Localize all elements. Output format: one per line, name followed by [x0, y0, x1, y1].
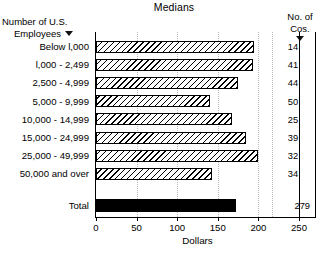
bar-below-1000[interactable] — [96, 41, 254, 53]
companies-value: 32 — [276, 147, 310, 165]
x-tick-150 — [218, 217, 219, 221]
x-tick-100 — [177, 217, 178, 221]
category-label: 5,000 - 9,999 — [0, 93, 92, 111]
companies-header-line1: No. of — [276, 11, 324, 23]
x-tick-label: 100 — [157, 222, 197, 233]
spacer-row — [0, 184, 92, 197]
category-label: l,000 - 2,499 — [0, 56, 92, 74]
x-tick-0 — [96, 217, 97, 221]
bar-series — [96, 32, 299, 217]
x-tick-label: 200 — [238, 222, 278, 233]
x-tick-label: 150 — [198, 222, 238, 233]
plot-area: 0 50 100 150 200 250 Dollars — [96, 32, 299, 217]
category-label: 10,000 - 14,999 — [0, 111, 92, 129]
companies-column-right-border — [315, 32, 316, 218]
companies-total-value: 279 — [276, 197, 310, 215]
companies-value: 39 — [276, 129, 310, 147]
bar-2500-4999[interactable] — [96, 77, 238, 89]
companies-column-separator — [272, 32, 273, 217]
companies-value: 25 — [276, 111, 310, 129]
bar-5000-9999[interactable] — [96, 95, 210, 107]
bar-total[interactable] — [96, 199, 236, 212]
y-axis-header-line1: Number of U.S. — [2, 16, 94, 28]
companies-value: 34 — [276, 165, 310, 183]
total-row-label: Total — [0, 197, 92, 215]
category-label: 15,000 - 24,999 — [0, 129, 92, 147]
x-tick-label: 50 — [117, 222, 157, 233]
x-tick-label: 250 — [279, 222, 319, 233]
companies-value: 44 — [276, 74, 310, 92]
companies-value-column: 14 41 44 50 25 39 32 34 279 — [276, 38, 310, 215]
companies-value: 50 — [276, 93, 310, 111]
companies-value: 14 — [276, 38, 310, 56]
bar-15000-24999[interactable] — [96, 132, 246, 144]
x-axis-line — [95, 217, 300, 218]
category-label: Below l,000 — [0, 38, 92, 56]
spacer-row — [276, 184, 310, 197]
median-compensation-bar-chart: Medians Number of U.S. Employees No. of … — [0, 0, 326, 254]
y-axis-header-line2: Employees — [14, 28, 61, 39]
category-label-column: Below l,000 l,000 - 2,499 2,500 - 4,999 … — [0, 38, 92, 215]
x-axis-title: Dollars — [96, 235, 299, 246]
down-triangle-marker-icon — [65, 31, 73, 36]
companies-column-bottom-border — [272, 217, 316, 218]
x-tick-50 — [137, 217, 138, 221]
category-label: 25,000 - 49,999 — [0, 147, 92, 165]
bar-10000-14999[interactable] — [96, 113, 232, 125]
y-axis-header: Number of U.S. Employees — [2, 16, 94, 39]
x-tick-label: 0 — [76, 222, 116, 233]
category-label: 2,500 - 4,999 — [0, 74, 92, 92]
bar-50000-and-over[interactable] — [96, 168, 212, 180]
bar-1000-2499[interactable] — [96, 59, 253, 71]
category-label: 50,000 and over — [0, 165, 92, 183]
bar-25000-49999[interactable] — [96, 150, 258, 162]
companies-value: 41 — [276, 56, 310, 74]
x-tick-200 — [258, 217, 259, 221]
